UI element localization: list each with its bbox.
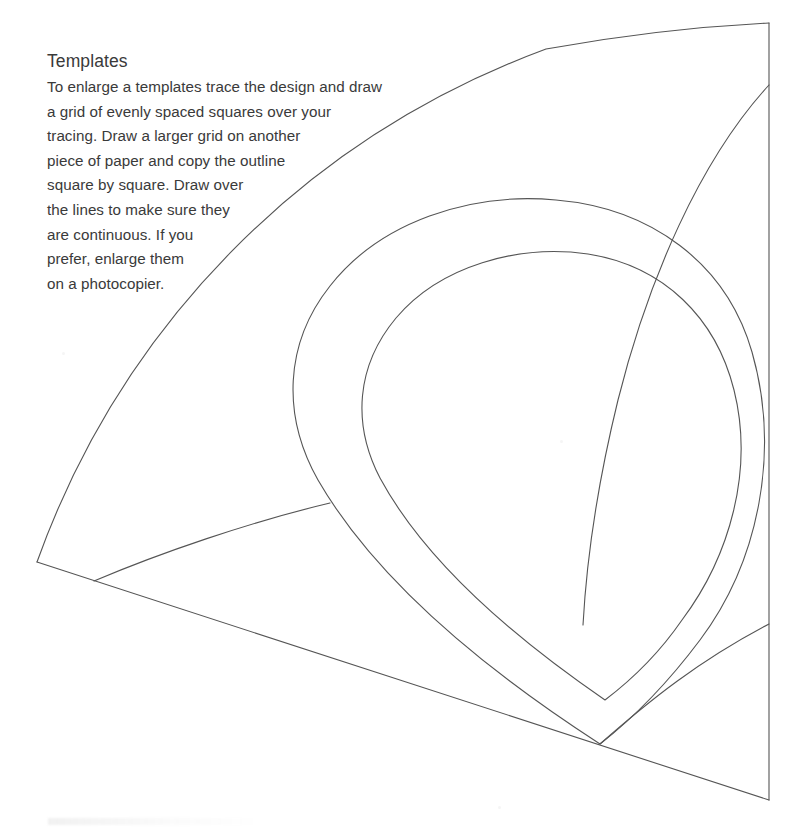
instructions-line-7: are continuous. If you [47, 223, 467, 248]
page-title: Templates [47, 50, 467, 72]
instructions-line-4: piece of paper and copy the outline [47, 149, 467, 174]
instructions-line-9: on a photocopier. [47, 272, 467, 297]
instructions-line-1: To enlarge a templates trace the design … [47, 75, 467, 100]
instructions-line-3: tracing. Draw a larger grid on another [47, 124, 467, 149]
instructions-line-2: a grid of evenly spaced squares over you… [47, 100, 467, 125]
template-page: Templates To enlarge a templates trace t… [0, 0, 804, 835]
instructions-line-5: square by square. Draw over [47, 173, 467, 198]
instructions-block: Templates To enlarge a templates trace t… [47, 50, 467, 296]
instructions-line-8: prefer, enlarge them [47, 247, 467, 272]
instructions-line-6: the lines to make sure they [47, 198, 467, 223]
